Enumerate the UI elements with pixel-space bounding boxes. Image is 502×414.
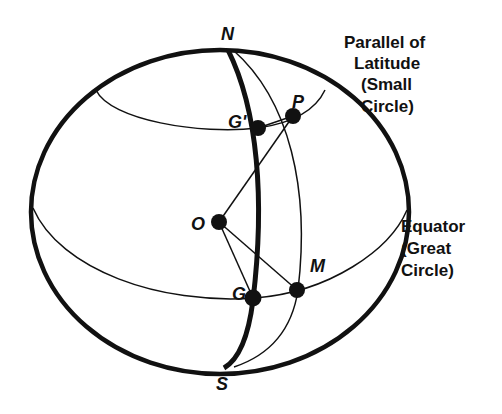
reference-meridian [224, 50, 259, 368]
label-M: M [310, 256, 326, 276]
parallel-label-line2: Latitude [354, 54, 420, 73]
parallel-label-line3: (Small [361, 75, 412, 94]
label-O: O [191, 214, 205, 234]
label-N: N [221, 24, 235, 44]
sphere-outline [31, 50, 409, 374]
equator-label-line2: (Great [401, 239, 451, 258]
label-G-prime: G' [228, 112, 247, 132]
equator-label-line1: Equator [401, 217, 466, 236]
parallel-label-line4: Circle) [361, 97, 414, 116]
point-O [211, 214, 227, 230]
label-G: G [232, 284, 246, 304]
label-P: P [292, 92, 305, 112]
parallel-label-line1: Parallel of [344, 33, 426, 52]
point-G [245, 290, 262, 307]
equator-label-line3: Circle) [401, 261, 454, 280]
point-G-prime [250, 120, 266, 136]
point-M [289, 282, 305, 298]
celestial-sphere-diagram: N S O P G' G M Parallel of Latitude (Sma… [0, 0, 502, 414]
label-S: S [216, 374, 228, 394]
